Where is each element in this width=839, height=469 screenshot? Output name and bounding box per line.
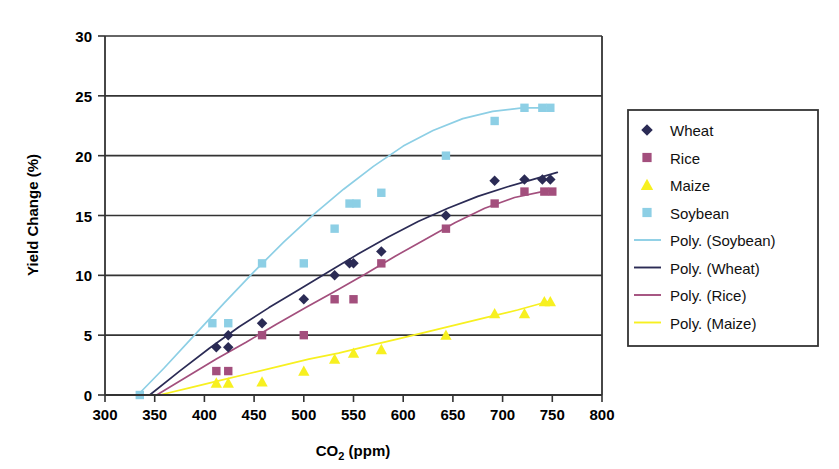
x-tick-label: 500 xyxy=(291,406,316,423)
data-point-rice xyxy=(490,199,498,207)
square-swatch-icon xyxy=(642,208,651,217)
data-point-rice xyxy=(377,259,385,267)
y-tick-label: 15 xyxy=(75,208,92,225)
data-point-rice xyxy=(212,367,220,375)
y-axis-title: Yield Change (%) xyxy=(24,154,41,276)
x-tick-label: 700 xyxy=(490,406,515,423)
legend-item-label: Wheat xyxy=(670,122,714,139)
data-point-rice xyxy=(349,295,357,303)
legend-item-label: Maize xyxy=(670,177,710,194)
chart-container: 300350400450500550600650700750800 051015… xyxy=(0,0,839,469)
x-tick-label: 800 xyxy=(589,406,614,423)
data-point-soybean xyxy=(538,104,546,112)
x-tick-label: 350 xyxy=(142,406,167,423)
legend-item-label: Rice xyxy=(670,150,700,167)
data-point-soybean xyxy=(490,117,498,125)
y-axis-title-text: Yield Change (%) xyxy=(24,154,41,276)
data-point-rice xyxy=(540,187,548,195)
x-tick-label: 550 xyxy=(341,406,366,423)
legend-item-label: Soybean xyxy=(670,205,729,222)
data-point-soybean xyxy=(520,104,528,112)
data-point-rice xyxy=(224,367,232,375)
x-tick-label: 650 xyxy=(440,406,465,423)
x-tick-label: 450 xyxy=(242,406,267,423)
legend-item-label: Poly. (Maize) xyxy=(670,315,756,332)
x-tick-label: 600 xyxy=(391,406,416,423)
legend-item-label: Poly. (Wheat) xyxy=(670,260,760,277)
y-tick-label: 0 xyxy=(84,387,92,404)
legend-item-label: Poly. (Rice) xyxy=(670,287,746,304)
data-point-rice xyxy=(300,331,308,339)
legend-box xyxy=(628,110,818,346)
data-point-rice xyxy=(330,295,338,303)
data-point-soybean xyxy=(258,259,266,267)
data-point-soybean xyxy=(300,259,308,267)
x-axis-title-unit: (ppm) xyxy=(344,442,390,459)
x-tick-label: 750 xyxy=(540,406,565,423)
y-tick-label: 20 xyxy=(75,148,92,165)
data-point-soybean xyxy=(442,151,450,159)
data-point-rice xyxy=(442,224,450,232)
chart-legend: WheatRiceMaizeSoybeanPoly. (Soybean)Poly… xyxy=(628,110,818,346)
data-point-soybean xyxy=(330,224,338,232)
y-tick-label: 5 xyxy=(84,327,92,344)
data-point-soybean xyxy=(546,104,554,112)
data-point-rice xyxy=(258,331,266,339)
data-point-rice xyxy=(548,187,556,195)
data-point-soybean xyxy=(224,319,232,327)
x-tick-label: 400 xyxy=(192,406,217,423)
y-tick-label: 25 xyxy=(75,88,92,105)
y-tick-label: 10 xyxy=(75,267,92,284)
y-tick-label: 30 xyxy=(75,28,92,45)
square-swatch-icon xyxy=(642,153,651,162)
data-point-soybean xyxy=(352,199,360,207)
data-point-soybean xyxy=(377,189,385,197)
legend-item-label: Poly. (Soybean) xyxy=(670,232,776,249)
x-tick-label: 300 xyxy=(92,406,117,423)
yield-change-vs-co2-chart: 300350400450500550600650700750800 051015… xyxy=(0,0,839,469)
data-point-soybean xyxy=(208,319,216,327)
x-axis-title-main: CO xyxy=(316,442,339,459)
data-point-rice xyxy=(520,187,528,195)
